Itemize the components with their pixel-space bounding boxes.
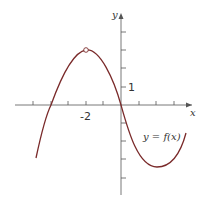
plot: x y -2 1 y = f(x) xyxy=(0,0,207,203)
open-point xyxy=(84,48,89,53)
x-tick-label: -2 xyxy=(80,110,91,123)
x-ticks xyxy=(33,101,174,105)
curve-label: y = f(x) xyxy=(142,131,181,142)
y-axis-label: y xyxy=(111,9,118,20)
graph: x y -2 1 y = f(x) xyxy=(0,0,207,203)
y-arrow-icon xyxy=(119,13,124,19)
x-axis-label: x xyxy=(190,107,196,118)
y-tick-label: 1 xyxy=(128,81,135,94)
curve xyxy=(36,50,186,167)
